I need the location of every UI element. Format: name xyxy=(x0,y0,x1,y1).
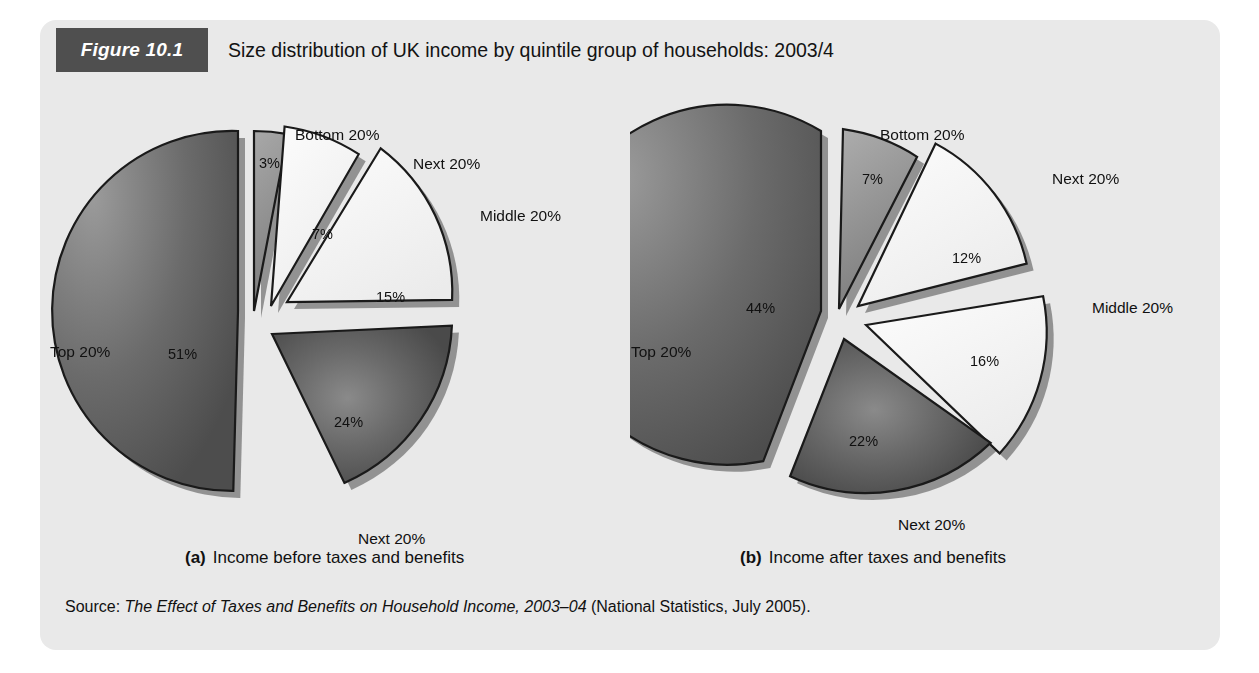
figure-card: Figure 10.1 Size distribution of UK inco… xyxy=(40,20,1220,650)
source-line: Source: The Effect of Taxes and Benefits… xyxy=(65,598,811,616)
pie-a-svg xyxy=(40,78,630,558)
caption-a: (a)Income before taxes and benefits xyxy=(185,548,464,568)
pie-a-label-bottom20: Bottom 20% xyxy=(295,126,379,144)
chart-captions: (a)Income before taxes and benefits (b)I… xyxy=(40,548,1220,588)
figure-title: Size distribution of UK income by quinti… xyxy=(228,28,834,72)
pie-a-value-next20-lower: 24% xyxy=(334,414,363,430)
pie-b-label-next20-lower: Next 20% xyxy=(898,516,965,534)
pie-b-value-next20-upper: 12% xyxy=(952,250,981,266)
pie-a-value-bottom20: 3% xyxy=(259,155,280,171)
caption-a-text: Income before taxes and benefits xyxy=(213,548,464,567)
pie-a-label-next20-lower: Next 20% xyxy=(358,530,425,548)
pie-b-label-bottom20: Bottom 20% xyxy=(880,126,964,144)
pie-b-svg xyxy=(630,78,1220,558)
pie-a-value-next20-upper: 7% xyxy=(312,226,333,242)
pie-b-label-next20-upper: Next 20% xyxy=(1052,170,1119,188)
source-title: The Effect of Taxes and Benefits on Hous… xyxy=(125,598,587,615)
source-suffix: (National Statistics, July 2005). xyxy=(591,598,811,615)
figure-number-label: Figure 10.1 xyxy=(81,39,184,61)
caption-a-marker: (a) xyxy=(185,548,206,567)
figure-header: Figure 10.1 Size distribution of UK inco… xyxy=(40,28,1220,72)
figure-number-badge: Figure 10.1 xyxy=(56,28,208,72)
pie-b-value-top20: 44% xyxy=(746,300,775,316)
pie-b-label-middle20: Middle 20% xyxy=(1092,299,1173,317)
source-prefix: Source: xyxy=(65,598,120,615)
caption-b-marker: (b) xyxy=(740,548,762,567)
pie-b-value-next20-lower: 22% xyxy=(849,433,878,449)
caption-b-text: Income after taxes and benefits xyxy=(769,548,1006,567)
pie-b-value-middle20: 16% xyxy=(970,353,999,369)
caption-b: (b)Income after taxes and benefits xyxy=(740,548,1006,568)
pie-b-value-bottom20: 7% xyxy=(862,171,883,187)
pie-a-label-top20: Top 20% xyxy=(50,343,110,361)
pie-a-value-middle20: 15% xyxy=(376,289,405,305)
pie-a-slice-top20 xyxy=(52,131,238,491)
pie-a-slice-next20-lower xyxy=(272,326,452,483)
pie-a-label-next20-upper: Next 20% xyxy=(413,155,480,173)
pie-chart-before-taxes: Bottom 20% Next 20% Middle 20% Next 20% … xyxy=(40,78,630,558)
pie-a-value-top20: 51% xyxy=(168,346,197,362)
charts-row: Bottom 20% Next 20% Middle 20% Next 20% … xyxy=(40,78,1220,558)
pie-a-label-middle20: Middle 20% xyxy=(480,207,561,225)
pie-chart-after-taxes: Bottom 20% Next 20% Middle 20% Next 20% … xyxy=(630,78,1220,558)
pie-b-label-top20: Top 20% xyxy=(631,343,691,361)
